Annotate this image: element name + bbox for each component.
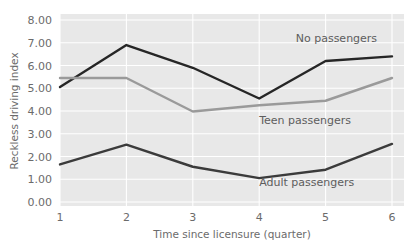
series-label-teen-passengers: Teen passengers	[258, 114, 351, 127]
y-tick-label: 4.00	[28, 105, 53, 118]
x-axis-title: Time since licensure (quarter)	[152, 228, 311, 240]
y-tick-label: 0.00	[28, 196, 53, 209]
x-tick-label: 1	[57, 211, 64, 224]
y-tick-label: 7.00	[28, 37, 53, 50]
y-tick-label: 8.00	[28, 14, 53, 27]
series-label-no-passengers: No passengers	[296, 32, 378, 45]
chart-canvas: 0.001.002.003.004.005.006.007.008.00 123…	[0, 0, 414, 240]
y-tick-label: 1.00	[28, 173, 53, 186]
x-axis-tick-labels: 123456	[57, 211, 396, 224]
y-tick-label: 6.00	[28, 60, 53, 73]
x-tick-label: 4	[256, 211, 263, 224]
x-tick-label: 2	[123, 211, 130, 224]
x-tick-label: 6	[389, 211, 396, 224]
y-axis-tick-labels: 0.001.002.003.004.005.006.007.008.00	[28, 14, 53, 209]
y-tick-label: 2.00	[28, 151, 53, 164]
series-label-adult-passengers: Adult passengers	[259, 176, 354, 189]
y-tick-label: 3.00	[28, 128, 53, 141]
reckless-driving-index-line-chart: 0.001.002.003.004.005.006.007.008.00 123…	[0, 0, 414, 240]
y-axis-title: Reckless driving index	[8, 52, 20, 169]
x-tick-label: 3	[189, 211, 196, 224]
x-tick-label: 5	[322, 211, 329, 224]
y-tick-label: 5.00	[28, 82, 53, 95]
